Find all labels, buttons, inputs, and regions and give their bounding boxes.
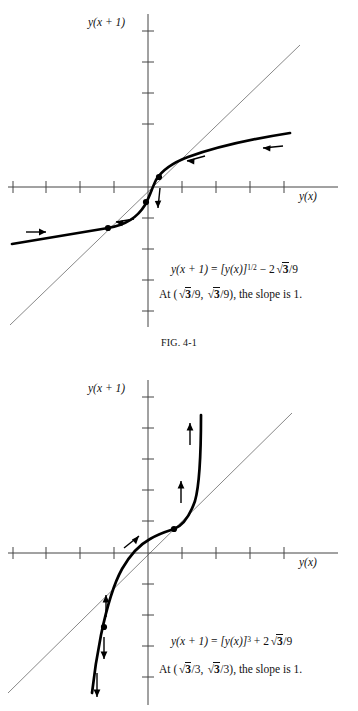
fixed-point-dot-fig1-lower	[143, 199, 149, 205]
arrow-upper-mid-up-fig2	[178, 481, 185, 503]
arrow-left-mid-up-fig2	[124, 536, 139, 548]
equation-radical-fig1: √3	[275, 263, 289, 275]
slope-note-fig2: At (√3/3, √3/3), the slope is 1.	[159, 663, 302, 675]
slope-note-radical2-fig1: √3	[206, 288, 220, 300]
equation-radicand-fig2: 3	[276, 634, 283, 647]
y-axis-label-fig2: y(x + 1)	[88, 382, 125, 394]
fixed-point-dot-fig2-upper	[171, 526, 177, 532]
slope-note-radicand2-fig1: 3	[213, 287, 220, 300]
equation-radicand-fig1: 3	[282, 262, 289, 275]
slope-note-tail2-fig1: /9), the slope is 1.	[220, 288, 302, 300]
equation-exponent-fig1: 1/2	[247, 263, 257, 272]
slope-note-tail1-fig2: /3,	[191, 663, 203, 675]
equation-radical-fig2: √3	[269, 635, 283, 647]
arrow-right-outer-fig1	[263, 145, 283, 151]
slope-note-tail1-fig1: /9,	[191, 288, 203, 300]
slope-note-radicand2-fig2: 3	[213, 662, 220, 675]
equation-sign-fig2: + 2	[254, 635, 269, 647]
slope-note-prefix-fig2: At (	[159, 663, 177, 675]
fixed-point-dot-fig2-lower	[101, 624, 107, 630]
equation-fig2: y(x + 1) = [y(x)]3 + 2√3/9	[171, 635, 292, 647]
figure-caption-fig1: FIG. 4-1	[0, 337, 358, 348]
map-curve-fig1	[12, 133, 290, 244]
slope-note-fig1: At (√3/9, √3/9), the slope is 1.	[159, 288, 302, 300]
y-axis-label-fig1: y(x + 1)	[88, 16, 125, 28]
equation-fig1: y(x + 1) = [y(x)]1/2 − 2√3/9	[171, 263, 298, 275]
map-curve-fig2	[92, 415, 201, 693]
slope-note-prefix-fig1: At (	[159, 288, 177, 300]
slope-note-radical2-fig2: √3	[206, 663, 220, 675]
slope-note-radical1-fig1: √3	[177, 288, 191, 300]
equation-rhs-base-fig2: [y(x)]	[220, 635, 247, 647]
equation-rhs-base-fig1: [y(x)]	[220, 263, 247, 275]
figure-4-2: y(x + 1) y(x) y(x + 1) = [y(x)]3 + 2√3/9…	[0, 355, 358, 711]
arrow-left-outer-fig1	[26, 229, 46, 236]
slope-note-radical1-fig2: √3	[177, 663, 191, 675]
equation-lhs-fig1: y(x + 1)	[171, 263, 208, 275]
arrow-center-down-fig1	[155, 188, 162, 208]
equation-lhs-fig2: y(x + 1)	[171, 635, 208, 647]
slope-note-radicand1-fig1: 3	[185, 287, 192, 300]
slope-note-tail2-fig2: /3), the slope is 1.	[220, 663, 302, 675]
figure-4-1: y(x + 1) y(x) y(x + 1) = [y(x)]1/2 − 2√3…	[0, 0, 358, 330]
equation-tail-fig2: /9	[283, 635, 292, 647]
fixed-point-dot-fig1-left	[105, 225, 111, 231]
fixed-point-dot-fig1-upper	[156, 174, 162, 180]
equation-tail-fig1: /9	[289, 263, 298, 275]
equation-sign-fig1: − 2	[260, 263, 275, 275]
x-axis-label-fig2: y(x)	[299, 556, 317, 568]
plot-area-fig1	[0, 0, 358, 330]
x-axis-label-fig1: y(x)	[299, 190, 317, 202]
arrow-lower-down-fig2	[101, 637, 108, 659]
plot-area-fig2	[0, 355, 358, 711]
arrow-top-up-fig2	[187, 423, 194, 445]
slope-note-radicand1-fig2: 3	[185, 662, 192, 675]
